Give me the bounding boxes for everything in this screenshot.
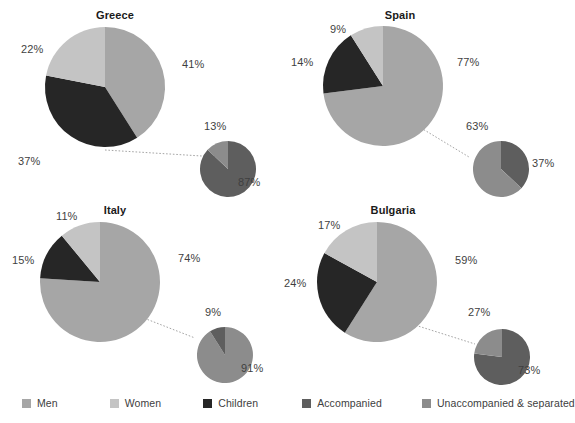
- pie-greece-main: [43, 25, 167, 149]
- legend-item-children[interactable]: Children: [203, 397, 258, 409]
- panel-spain: Spain 77% 9% 14%: [280, 0, 560, 196]
- chart-legend: Men Women Children Accompanied Unaccompa…: [0, 392, 560, 414]
- label-greece-accompanied: 87%: [238, 176, 260, 188]
- panel-title-spain: Spain: [365, 9, 435, 21]
- label-spain-men: 77%: [457, 56, 479, 68]
- legend-item-men[interactable]: Men: [22, 397, 58, 409]
- legend-item-women[interactable]: Women: [110, 397, 162, 409]
- label-bulgaria-women: 17%: [318, 219, 340, 231]
- pie-bulgaria-main: [315, 220, 439, 344]
- label-italy-accompanied: 91%: [241, 362, 263, 374]
- pie-italy-satellite: [196, 326, 254, 384]
- slice-bulgaria-unaccompanied: [474, 329, 502, 357]
- label-bulgaria-men: 59%: [455, 254, 477, 266]
- label-greece-men: 41%: [182, 58, 204, 70]
- legend-label-unaccompanied: Unaccompanied & separated: [437, 397, 575, 409]
- panel-greece: Greece 41% 22% 37%: [0, 0, 280, 196]
- label-spain-women: 9%: [330, 23, 346, 35]
- label-bulgaria-accompanied: 73%: [518, 364, 540, 376]
- legend-item-unaccompanied[interactable]: Unaccompanied & separated: [422, 397, 575, 409]
- panel-title-greece: Greece: [75, 9, 155, 21]
- label-spain-unaccompanied: 37%: [532, 157, 554, 169]
- pie-spain-satellite: [472, 140, 530, 198]
- legend-swatch-men-icon: [22, 399, 31, 408]
- panel-title-bulgaria: Bulgaria: [348, 204, 438, 216]
- label-greece-children: 37%: [18, 155, 40, 167]
- pie-greece-satellite: [199, 140, 257, 198]
- legend-swatch-accompanied-icon: [302, 399, 311, 408]
- label-italy-children: 15%: [12, 254, 34, 266]
- label-spain-accompanied: 63%: [466, 120, 488, 132]
- label-italy-unaccompanied: 9%: [205, 306, 221, 318]
- pie-bulgaria-satellite: [473, 328, 531, 386]
- panel-bulgaria: Bulgaria 59% 17% 24%: [280, 196, 560, 392]
- label-italy-women: 11%: [56, 210, 78, 222]
- label-spain-children: 14%: [291, 56, 313, 68]
- label-italy-men: 74%: [178, 252, 200, 264]
- panel-title-italy: Italy: [80, 204, 150, 216]
- label-bulgaria-children: 24%: [284, 277, 306, 289]
- legend-swatch-women-icon: [110, 399, 119, 408]
- label-bulgaria-unaccompanied: 27%: [468, 306, 490, 318]
- label-greece-unaccompanied: 13%: [204, 120, 226, 132]
- legend-swatch-children-icon: [203, 399, 212, 408]
- pie-spain-main: [321, 24, 445, 148]
- pie-italy-main: [38, 220, 162, 344]
- legend-label-women: Women: [125, 397, 162, 409]
- legend-label-men: Men: [37, 397, 58, 409]
- legend-label-accompanied: Accompanied: [317, 397, 382, 409]
- label-greece-women: 22%: [21, 43, 43, 55]
- legend-label-children: Children: [218, 397, 258, 409]
- panel-italy: Italy 74% 11% 15%: [0, 196, 280, 392]
- legend-swatch-unaccompanied-icon: [422, 399, 431, 408]
- legend-item-accompanied[interactable]: Accompanied: [302, 397, 382, 409]
